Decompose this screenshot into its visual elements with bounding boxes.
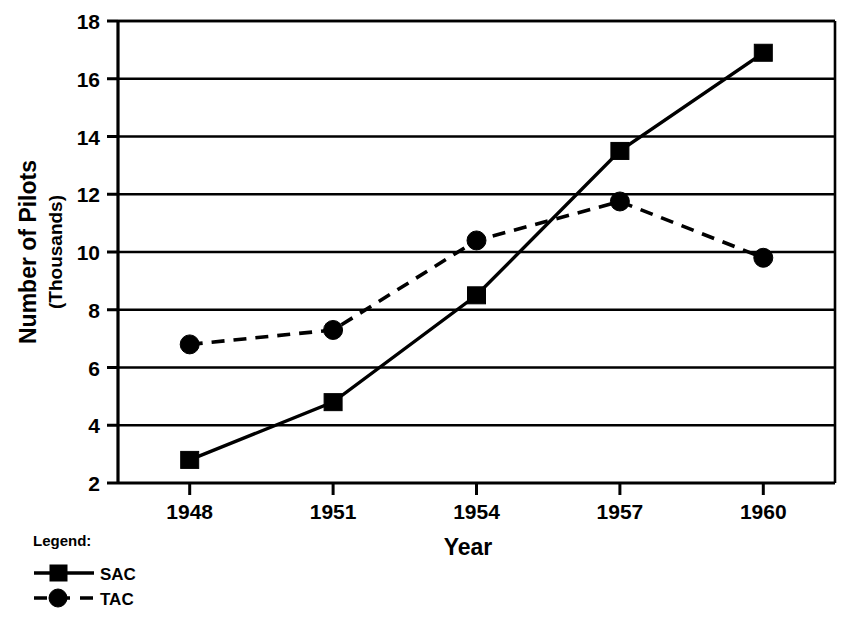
x-tick-label-1957: 1957 — [597, 500, 644, 523]
data-point-tac-1960 — [754, 248, 773, 267]
x-tick-label-1948: 1948 — [166, 500, 213, 523]
legend-label-tac: TAC — [100, 590, 134, 609]
gridlines — [118, 21, 835, 425]
y-tick-label-16: 16 — [77, 68, 100, 91]
legend-marker-circle — [49, 589, 67, 607]
data-point-tac-1948 — [180, 335, 199, 354]
data-point-sac-1948 — [181, 451, 199, 468]
chart-container: 24681012141618 19481951195419571960 Numb… — [0, 0, 853, 618]
data-point-tac-1957 — [610, 192, 629, 211]
x-axis-ticks: 19481951195419571960 — [166, 483, 786, 523]
data-point-sac-1951 — [324, 394, 342, 411]
data-point-sac-1960 — [754, 44, 772, 61]
x-tick-label-1954: 1954 — [453, 500, 500, 523]
y-axis-title-line1: Number of Pilots — [15, 160, 41, 344]
series-line-sac — [190, 53, 764, 460]
series-line-tac — [190, 202, 764, 345]
data-point-tac-1951 — [324, 320, 343, 339]
y-axis-title-line2: (Thousands) — [45, 195, 66, 309]
series-tac — [180, 192, 773, 354]
y-tick-label-18: 18 — [77, 10, 101, 33]
y-axis-title: Number of Pilots (Thousands) — [15, 160, 66, 344]
legend-item-tac[interactable]: TAC — [34, 589, 134, 609]
data-point-sac-1957 — [611, 142, 629, 159]
series-sac — [181, 44, 773, 468]
y-axis-ticks: 24681012141618 — [77, 10, 118, 495]
legend-item-sac[interactable]: SAC — [34, 565, 136, 584]
data-point-tac-1954 — [467, 231, 486, 250]
y-tick-label-14: 14 — [77, 126, 101, 149]
x-axis-title: Year — [444, 534, 493, 560]
y-tick-label-4: 4 — [88, 414, 100, 437]
y-tick-label-2: 2 — [88, 472, 100, 495]
y-tick-label-12: 12 — [77, 183, 100, 206]
legend-title: Legend: — [33, 532, 91, 549]
y-tick-label-8: 8 — [88, 299, 100, 322]
y-tick-label-6: 6 — [88, 357, 100, 380]
x-tick-label-1960: 1960 — [740, 500, 787, 523]
data-series-layer — [180, 44, 773, 468]
x-tick-label-1951: 1951 — [310, 500, 357, 523]
legend-marker-square — [50, 565, 67, 581]
legend: Legend: SAC TAC — [33, 532, 136, 609]
data-point-sac-1954 — [468, 287, 486, 304]
legend-label-sac: SAC — [100, 565, 136, 584]
line-chart: 24681012141618 19481951195419571960 Numb… — [0, 0, 853, 618]
y-tick-label-10: 10 — [77, 241, 100, 264]
